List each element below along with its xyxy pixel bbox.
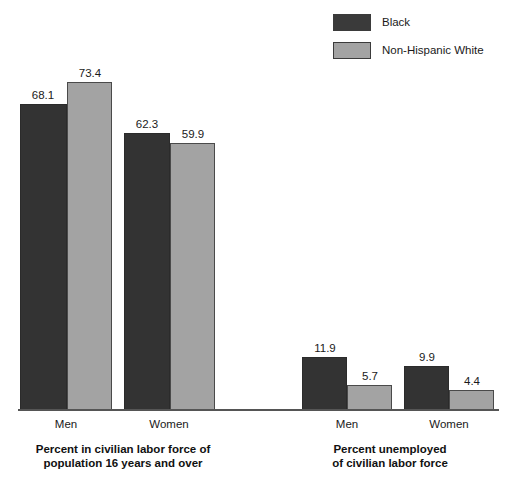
- panel-caption-unemployment: Percent unemployed of civilian labor for…: [290, 442, 490, 470]
- bar-value-unemployed-women-non-hispanic-white: 4.4: [443, 375, 501, 387]
- bar-value-unemployed-women-black: 9.9: [398, 351, 456, 363]
- bar-labor-force-men-black: [20, 104, 67, 410]
- grouped-bar-chart: Black Non-Hispanic White 68.1 73.4 62.3 …: [0, 0, 511, 484]
- axis-baseline: [18, 409, 499, 411]
- bar-labor-force-women-black: [124, 133, 170, 410]
- panel-caption-unemployment-line1: Percent unemployed: [290, 442, 490, 456]
- bar-value-labor-force-men-non-hispanic-white: 73.4: [61, 67, 119, 79]
- bar-unemployed-men-black: [302, 357, 347, 410]
- category-label-panel1-women: Women: [140, 418, 198, 431]
- panel-caption-labor-force: Percent in civilian labor force of popul…: [13, 442, 233, 470]
- bar-unemployed-women-non-hispanic-white: [449, 390, 494, 410]
- category-label-panel1-men: Men: [37, 418, 95, 431]
- bar-labor-force-men-non-hispanic-white: [67, 82, 112, 410]
- category-label-panel2-women: Women: [420, 418, 478, 431]
- panel-caption-unemployment-line2: of civilian labor force: [290, 456, 490, 470]
- bar-unemployed-women-black: [404, 366, 449, 410]
- bar-labor-force-women-non-hispanic-white: [170, 143, 215, 410]
- bar-unemployed-men-non-hispanic-white: [347, 385, 392, 410]
- bar-value-labor-force-women-non-hispanic-white: 59.9: [164, 128, 222, 140]
- panel-caption-labor-force-line1: Percent in civilian labor force of: [13, 442, 233, 456]
- bar-value-labor-force-men-black: 68.1: [14, 89, 72, 101]
- category-label-panel2-men: Men: [318, 418, 376, 431]
- panel-caption-labor-force-line2: population 16 years and over: [13, 456, 233, 470]
- plot-area: 68.1 73.4 62.3 59.9 11.9 5.7 9.9 4.4: [0, 0, 511, 410]
- bar-value-unemployed-men-black: 11.9: [296, 342, 354, 354]
- bar-value-unemployed-men-non-hispanic-white: 5.7: [341, 370, 399, 382]
